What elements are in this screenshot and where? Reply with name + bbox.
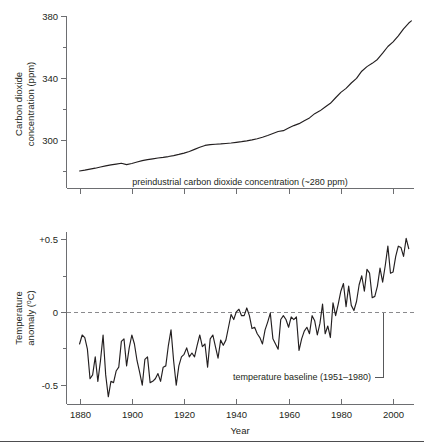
co2-axis-title-line2: concentration (ppm) [25,62,36,146]
temperature-axis-unit-prefix: anomaly ( [25,303,36,346]
temperature-axis-title-line1: Temperature [13,291,24,344]
co2-data-line [80,21,412,171]
temperature-baseline-annotation-label: temperature baseline (1951–1980) [233,372,371,382]
climate-figure: 380 340 300 Carbon dioxide concentration… [0,0,424,445]
figure-canvas: 380 340 300 Carbon dioxide concentration… [0,0,424,445]
temperature-xtick-1980: 1980 [331,409,352,420]
temperature-panel: +0.5 0 -0.5 Temperature anomaly (oC) tem… [13,232,414,436]
year-axis-title: Year [230,425,249,436]
temperature-xtick-1880: 1880 [70,409,91,420]
co2-axis-title-line1: Carbon dioxide [13,72,24,136]
temperature-xtick-1900: 1900 [122,409,143,420]
temperature-x-ticks [81,399,394,405]
co2-x-ticks [81,189,394,195]
temperature-x-tick-labels: 1880190019201940196019802000 [70,409,404,420]
temperature-axis-unit-suffix: C) [25,290,36,300]
temperature-axis-title-line2: anomaly (oC) [25,290,36,345]
temperature-ytick-minus05: -0.5 [42,380,58,391]
co2-y-ticks [61,17,67,172]
temperature-xtick-1940: 1940 [226,409,247,420]
co2-ytick-340: 340 [42,73,58,84]
temperature-xtick-1960: 1960 [279,409,300,420]
temperature-xtick-2000: 2000 [383,409,404,420]
temperature-ytick-zero: 0 [53,307,58,318]
co2-panel: 380 340 300 Carbon dioxide concentration… [13,11,414,194]
co2-ytick-380: 380 [42,11,58,22]
preindustrial-annotation-label: preindustrial carbon dioxide concentrati… [132,177,347,187]
temperature-xtick-1920: 1920 [174,409,195,420]
baseline-leader-bracket [375,313,384,378]
temperature-y-ticks [61,240,67,386]
temperature-ytick-plus05: +0.5 [39,234,58,245]
co2-ytick-300: 300 [42,135,58,146]
